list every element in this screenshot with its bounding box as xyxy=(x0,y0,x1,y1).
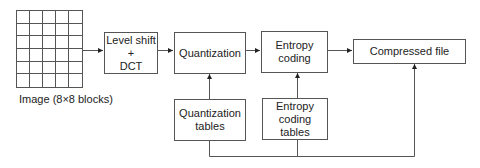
entropy-coding-block: Entropy coding xyxy=(261,31,328,73)
quantization-tables-block: Quantization tables xyxy=(174,99,246,141)
image-caption: Image (8×8 blocks) xyxy=(19,93,113,105)
image-block-grid xyxy=(16,10,83,88)
entropy-coding-tables-block: Entropy coding tables xyxy=(262,98,328,140)
quantization-block: Quantization xyxy=(174,32,246,74)
compressed-file-block: Compressed file xyxy=(353,39,466,64)
level-shift-dct-block: Level shift + DCT xyxy=(104,32,158,74)
